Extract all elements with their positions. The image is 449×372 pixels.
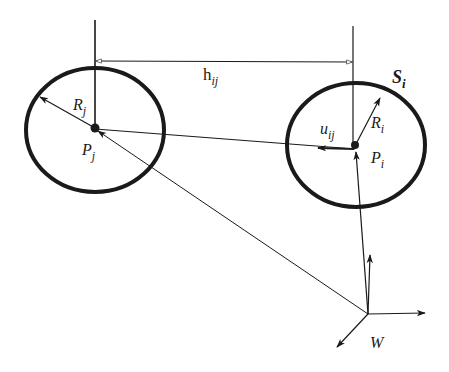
- w-x-axis-arrow: [368, 313, 425, 314]
- label-u-ij: uij: [320, 120, 335, 142]
- label-w: W: [370, 334, 385, 351]
- line-pj-to-pi: [95, 129, 355, 149]
- p-j-vector: [98, 131, 368, 314]
- label-s-i: Si: [392, 67, 406, 91]
- label-h-ij: hij: [203, 65, 219, 88]
- label-p-i: Pi: [370, 149, 384, 171]
- u-ij-arrow: [318, 148, 354, 149]
- label-r-i: Ri: [370, 114, 384, 136]
- robot-obstacle-diagram: hij Rj Pj Si Ri uij Pi W: [0, 0, 449, 372]
- w-z-axis-arrow: [337, 314, 368, 347]
- w-y-axis-arrow: [368, 255, 370, 314]
- h-ij-dimension-arrow: [96, 61, 352, 62]
- label-r-j: Rj: [72, 96, 87, 118]
- label-p-j: Pj: [81, 141, 96, 163]
- p-j-point: [91, 124, 100, 133]
- p-i-point: [351, 141, 359, 149]
- r-j-arrow: [40, 97, 95, 128]
- p-i-vector: [356, 152, 368, 314]
